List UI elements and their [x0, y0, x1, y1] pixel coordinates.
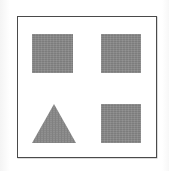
shape-square-top-left: [32, 34, 73, 73]
shape-triangle-bottom-left: [31, 103, 77, 144]
triangle-glyph: [31, 103, 77, 144]
figure-canvas: [0, 0, 169, 171]
shape-square-bottom-right: [101, 104, 141, 143]
shape-square-top-right: [101, 34, 141, 73]
triangle-polygon: [32, 104, 76, 143]
